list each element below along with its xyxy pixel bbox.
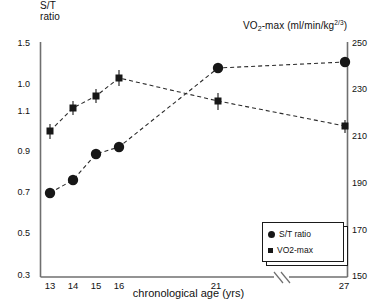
data-point-st-ratio-16 (114, 142, 124, 152)
series-vo2max-line (50, 78, 345, 131)
circle-marker-icon (268, 231, 275, 238)
data-point-st-ratio-13 (45, 188, 55, 198)
series-st-ratio-markers (45, 57, 350, 198)
legend-label-st-ratio: S/T ratio (279, 229, 311, 239)
x-axis-title: chronological age (yrs) (0, 288, 377, 300)
series-vo2max-markers (47, 75, 349, 135)
data-point-vo2max-21 (215, 98, 222, 105)
legend-item-vo2max: VO2-max (268, 245, 313, 255)
data-point-vo2max-13 (47, 128, 54, 135)
legend: S/T ratio VO2-max (262, 222, 344, 262)
chart-figure: S/T ratio VO2-max (ml/min/kg2/3) 1.5 1.0… (0, 0, 377, 306)
data-point-vo2max-16 (116, 75, 123, 82)
data-point-st-ratio-14 (68, 175, 78, 185)
data-point-vo2max-15 (93, 93, 100, 100)
data-point-st-ratio-15 (91, 149, 101, 159)
data-point-vo2max-14 (70, 105, 77, 112)
series-st-ratio-line (50, 62, 345, 193)
data-point-st-ratio-27 (340, 57, 350, 67)
legend-label-vo2max: VO2-max (277, 245, 313, 255)
data-point-vo2max-27 (342, 123, 349, 130)
data-point-st-ratio-21 (213, 63, 223, 73)
legend-item-st-ratio: S/T ratio (268, 229, 311, 239)
series-vo2max-errorbars (50, 70, 345, 139)
square-marker-icon (268, 248, 273, 253)
